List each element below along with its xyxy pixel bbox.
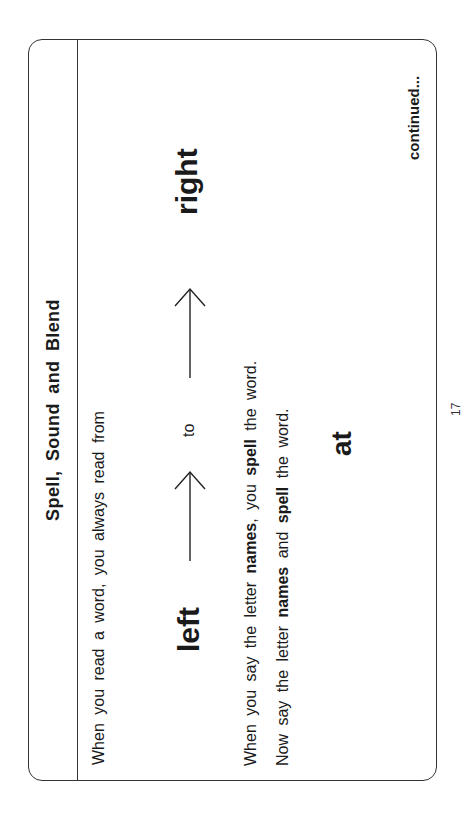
rotated-page: Spell, Sound and Blend When you read a w… — [0, 0, 471, 818]
text: the word. — [242, 361, 259, 439]
word-left: left — [172, 607, 206, 652]
text: , you — [242, 476, 259, 523]
bold-names: names — [242, 523, 259, 574]
connector-to: to — [180, 424, 198, 437]
page-number: 17 — [449, 403, 463, 416]
intro-text: When you read a word, you always read fr… — [90, 411, 108, 765]
text: the word. — [274, 408, 291, 486]
continued-label: continued... — [405, 76, 422, 160]
word-right: right — [170, 148, 204, 215]
instruction-line-1: When you say the letter names, you spell… — [242, 361, 260, 766]
title-bar: Spell, Sound and Blend — [29, 40, 78, 780]
text: and — [274, 523, 291, 567]
text: Now say the letter — [274, 618, 291, 767]
instruction-line-2: Now say the letter names and spell the w… — [274, 408, 292, 766]
bold-names: names — [274, 567, 291, 618]
text: When you say the letter — [242, 573, 259, 766]
bold-spell: spell — [274, 487, 291, 523]
bold-spell: spell — [242, 439, 259, 475]
page-title: Spell, Sound and Blend — [43, 299, 64, 521]
example-word: at — [326, 431, 358, 456]
right-arrow-icon — [172, 285, 208, 380]
right-arrow-icon — [172, 468, 208, 563]
